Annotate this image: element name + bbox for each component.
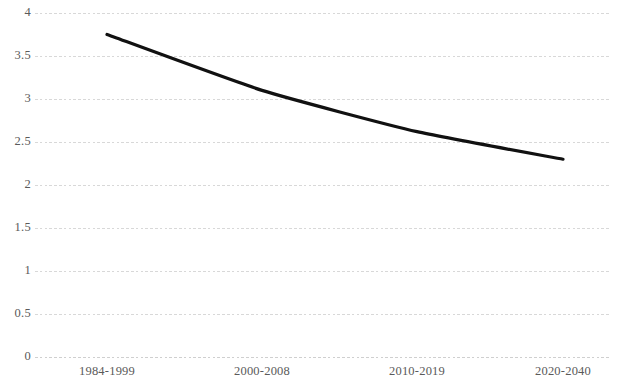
y-axis-tick-label: 1 [24,263,31,278]
data-series-group [107,35,563,160]
y-axis-tick-label: 0.5 [14,306,31,321]
y-axis-tick-label: 2 [24,177,31,192]
line-chart: 00.511.522.533.54 1984-19992000-20082010… [0,0,628,380]
y-axis-tick-label: 3 [24,91,31,106]
y-axis-tick-label: 0 [24,349,31,364]
x-axis-tick-label: 2010-2019 [357,364,477,379]
y-axis-tick-label: 1.5 [14,220,31,235]
x-axis-tick-label: 2000-2008 [202,364,322,379]
x-axis-tick-label: 2020-2040 [503,364,623,379]
data-line-series-0 [107,35,563,160]
y-axis-tick-label: 4 [24,5,31,20]
y-axis-tick-label: 2.5 [14,134,31,149]
gridlines [35,14,611,358]
x-axis-tick-label: 1984-1999 [47,364,167,379]
chart-plot-area [0,0,628,380]
y-axis-tick-label: 3.5 [14,48,31,63]
